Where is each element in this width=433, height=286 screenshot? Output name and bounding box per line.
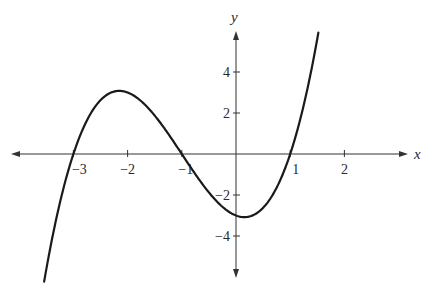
y-axis-label: y bbox=[229, 9, 238, 25]
x-tick-label: 1 bbox=[292, 162, 299, 177]
y-axis-arrow-up-icon bbox=[233, 31, 239, 40]
x-tick-label: −3 bbox=[72, 162, 87, 177]
x-axis-label: x bbox=[413, 146, 421, 162]
chart: x y −3−2−112 42−2−4 bbox=[0, 0, 433, 286]
x-axis-arrow-left-icon bbox=[11, 151, 20, 157]
x-axis-arrow-right-icon bbox=[399, 151, 408, 157]
y-tick-label: 2 bbox=[223, 106, 230, 121]
y-tick-label: −4 bbox=[215, 229, 230, 244]
x-tick-label: 2 bbox=[341, 162, 348, 177]
y-tick-label: 4 bbox=[223, 65, 230, 80]
cubic-curve bbox=[44, 33, 318, 282]
y-axis-arrow-down-icon bbox=[233, 269, 239, 278]
x-tick-label: −2 bbox=[120, 162, 135, 177]
